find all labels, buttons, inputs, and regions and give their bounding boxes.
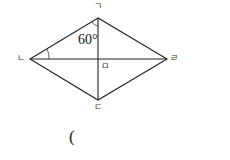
angle-arc-left (47, 49, 49, 59)
angle-arc-top (92, 22, 98, 26)
vertex-label-bottom: ㄷ (94, 103, 102, 112)
answer-parenthesis: ( (69, 128, 75, 145)
angle-label: 60° (78, 33, 98, 47)
vertex-label-top: ㄱ (94, 2, 102, 11)
vertex-label-right: ㄹ (170, 54, 178, 63)
center-label: ㅁ (101, 62, 109, 71)
rhombus-diagram (0, 0, 230, 160)
vertex-label-left: ㄴ (17, 54, 25, 63)
